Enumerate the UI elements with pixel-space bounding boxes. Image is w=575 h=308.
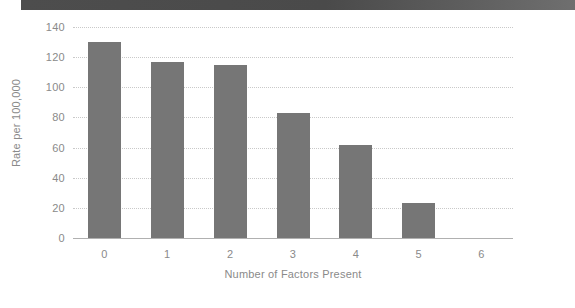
x-tick-label-5: 5 xyxy=(415,248,421,260)
bar-5 xyxy=(402,203,435,238)
top-decorative-banner xyxy=(21,0,575,10)
bar-3 xyxy=(277,113,310,238)
x-tick-label-1: 1 xyxy=(164,248,170,260)
bars-layer xyxy=(73,27,513,238)
bar-2 xyxy=(214,65,247,238)
y-tick-label-80: 80 xyxy=(52,111,65,123)
y-axis-title: Rate per 100,000 xyxy=(10,63,22,183)
bar-4 xyxy=(339,145,372,238)
bar-1 xyxy=(151,62,184,238)
x-tick-label-6: 6 xyxy=(478,248,484,260)
x-tick-label-3: 3 xyxy=(290,248,296,260)
bar-0 xyxy=(88,42,121,238)
chart-figure: 140120100806040200 0123456 Number of Fac… xyxy=(0,0,575,308)
x-axis-line xyxy=(73,238,513,239)
y-tick-label-120: 120 xyxy=(46,51,65,63)
x-tick-label-2: 2 xyxy=(227,248,233,260)
y-tick-label-0: 0 xyxy=(59,232,65,244)
x-tick-label-4: 4 xyxy=(353,248,359,260)
y-tick-label-20: 20 xyxy=(52,202,65,214)
x-tick-label-0: 0 xyxy=(101,248,107,260)
x-axis-title: Number of Factors Present xyxy=(73,268,513,280)
y-tick-label-60: 60 xyxy=(52,142,65,154)
y-tick-label-40: 40 xyxy=(52,172,65,184)
y-tick-label-100: 100 xyxy=(46,81,65,93)
y-tick-label-140: 140 xyxy=(46,21,65,33)
y-axis-tick-labels: 140120100806040200 xyxy=(33,27,65,238)
